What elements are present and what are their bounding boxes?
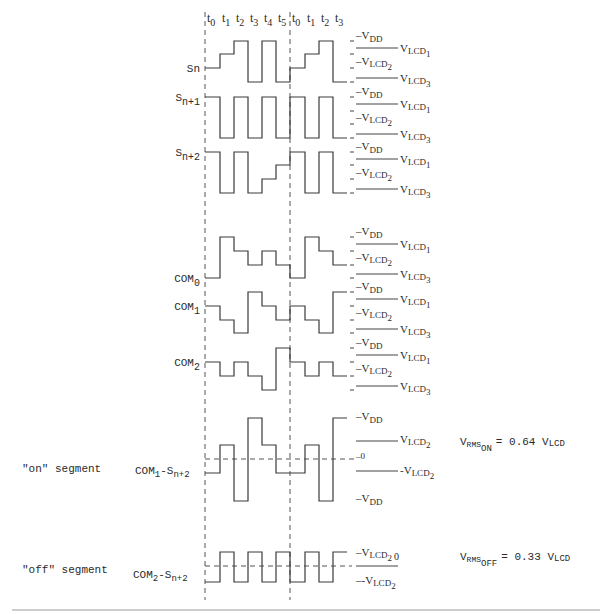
off-segment-group: "off" segment COM2-Sn+2 –VLCD20 –-VLCD2 … (22, 546, 570, 591)
svg-text:–VDD: –VDD (355, 280, 383, 295)
waveform-sn-plus-1 (205, 97, 347, 138)
svg-text:VLCD1: VLCD1 (400, 349, 430, 366)
waveform-sn (205, 41, 347, 82)
time-axis-labels: t0t1t2t3t4t5t0t1t2t3 (207, 11, 343, 28)
on-level-zero: –0 (355, 451, 366, 461)
signal-label-com2: COM2 (174, 357, 200, 373)
rms-off-formula: VRMSOFF= 0.33 VLCD (460, 551, 570, 569)
svg-text:–VDD: –VDD (355, 225, 383, 240)
off-segment-label: "off" segment (22, 564, 108, 576)
signal-label-com1: COM1 (174, 301, 200, 317)
lcd-drive-waveform-diagram: t0t1t2t3t4t5t0t1t2t3 SnSn+1Sn+2COM0COM1C… (0, 0, 609, 614)
svg-text:–VLCD2: –VLCD2 (355, 306, 392, 323)
svg-text:VLCD1: VLCD1 (400, 153, 430, 170)
svg-text:–VLCD2: –VLCD2 (355, 166, 392, 183)
waveform-com2 (205, 348, 347, 390)
svg-text:VLCD3: VLCD3 (400, 380, 431, 397)
signal-label-sn: Sn (187, 63, 200, 75)
level-labels-sn-plus-1: –VDDVLCD1–VLCD2VLCD3 (355, 85, 431, 145)
time-label-2: t2 (236, 11, 244, 28)
time-label-4: t4 (264, 11, 272, 28)
svg-text:–VDD: –VDD (355, 29, 383, 44)
off-level-vlcd2: –VLCD20 (355, 546, 399, 563)
time-label-6: t0 (292, 11, 300, 28)
svg-text:VLCD3: VLCD3 (400, 72, 431, 89)
on-segment-group: "on" segment COM1-Sn+2 –VDD VLCD2 –0 -VL… (22, 410, 565, 507)
waveform-sn-plus-2 (205, 152, 347, 193)
time-label-7: t1 (307, 11, 315, 28)
svg-text:VLCD1: VLCD1 (400, 98, 430, 115)
svg-text:VLCD1: VLCD1 (400, 293, 430, 310)
svg-text:–VDD: –VDD (355, 85, 383, 100)
time-label-5: t5 (278, 11, 286, 28)
rms-on-formula: VRMSON= 0.64 VLCD (460, 436, 565, 454)
signal-label-sn-plus-1: Sn+1 (175, 92, 200, 108)
svg-text:–VLCD2: –VLCD2 (355, 111, 392, 128)
time-label-9: t3 (335, 11, 343, 28)
time-label-1: t1 (222, 11, 230, 28)
svg-text:–VLCD2: –VLCD2 (355, 55, 392, 72)
on-segment-signal-name: COM1-Sn+2 (135, 465, 190, 480)
svg-text:–VLCD2: –VLCD2 (355, 362, 392, 379)
time-label-8: t2 (321, 11, 329, 28)
on-level-vdd-top: –VDD (355, 410, 383, 425)
on-segment-label: "on" segment (22, 463, 101, 475)
on-level-vdd-bottom: –VDD (355, 492, 383, 507)
level-labels-com2: –VDDVLCD1–VLCD2VLCD3 (355, 336, 431, 397)
on-level-neg-vlcd2: -VLCD2 (400, 464, 434, 481)
svg-text:VLCD3: VLCD3 (400, 323, 431, 340)
waveform-com1 (205, 292, 347, 333)
level-labels-sn-plus-2: –VDDVLCD1–VLCD2VLCD3 (355, 140, 431, 200)
svg-text:VLCD3: VLCD3 (400, 183, 431, 200)
svg-text:–VLCD2: –VLCD2 (355, 251, 392, 268)
svg-text:–VDD: –VDD (355, 140, 383, 155)
off-segment-waveform (205, 552, 347, 582)
signal-labels: SnSn+1Sn+2COM0COM1COM2 (174, 63, 200, 373)
signal-waveforms (205, 41, 354, 390)
level-labels-com1: –VDDVLCD1–VLCD2VLCD3 (355, 280, 431, 340)
level-labels-com0: –VDDVLCD1–VLCD2VLCD3 (355, 225, 431, 285)
time-label-3: t3 (250, 11, 258, 28)
off-level-neg-vlcd2: –-VLCD2 (355, 574, 396, 591)
on-level-vlcd2: VLCD2 (400, 433, 430, 450)
waveform-com0 (205, 237, 347, 278)
svg-text:VLCD3: VLCD3 (400, 128, 431, 145)
svg-text:VLCD1: VLCD1 (400, 42, 430, 59)
svg-text:VLCD3: VLCD3 (400, 268, 431, 285)
off-segment-signal-name: COM2-Sn+2 (133, 569, 188, 584)
voltage-level-labels: –VDDVLCD1–VLCD2VLCD3–VDDVLCD1–VLCD2VLCD3… (355, 29, 431, 397)
svg-text:VLCD1: VLCD1 (400, 238, 430, 255)
time-label-0: t0 (207, 11, 215, 28)
svg-text:–VDD: –VDD (355, 336, 383, 351)
level-labels-sn: –VDDVLCD1–VLCD2VLCD3 (355, 29, 431, 89)
signal-label-com0: COM0 (174, 273, 200, 289)
signal-label-sn-plus-2: Sn+2 (175, 147, 200, 163)
